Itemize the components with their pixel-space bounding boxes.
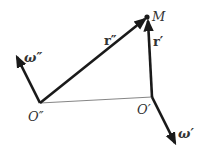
vector-diagram: M r″ r′ ω″ O″ O′ ω′ bbox=[0, 0, 201, 154]
label-omega-single: ω′ bbox=[178, 126, 194, 141]
r-single-vector bbox=[148, 21, 152, 97]
omega-single-vector bbox=[152, 97, 175, 143]
label-r-double: r″ bbox=[104, 33, 117, 48]
connector-line bbox=[40, 97, 152, 103]
label-m: M bbox=[151, 9, 166, 24]
r-double-vector bbox=[40, 19, 145, 103]
label-o-single: O′ bbox=[137, 102, 151, 117]
point-m bbox=[144, 14, 149, 19]
label-o-double: O″ bbox=[28, 109, 44, 124]
label-omega-double: ω″ bbox=[24, 50, 42, 65]
label-r-single: r′ bbox=[153, 34, 164, 49]
